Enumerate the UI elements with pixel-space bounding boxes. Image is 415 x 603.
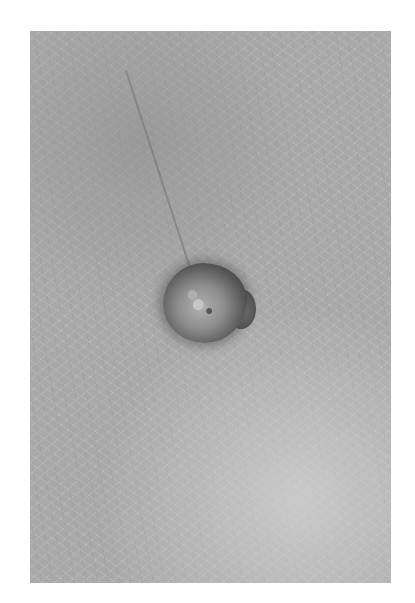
skin-photo xyxy=(30,31,391,583)
